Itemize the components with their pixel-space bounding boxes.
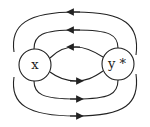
edge-bottom-middle — [34, 80, 118, 99]
node-y-star-label: y * — [107, 56, 126, 71]
edge-top-middle — [34, 30, 118, 49]
diagram-canvas: x y * — [0, 0, 150, 127]
diagram-svg: x y * — [0, 0, 150, 127]
node-x: x — [19, 49, 51, 81]
edge-bottom-inner — [50, 71, 103, 81]
edge-top-inner — [50, 47, 103, 58]
node-y-star: y * — [102, 48, 134, 80]
node-x-label: x — [31, 57, 39, 72]
